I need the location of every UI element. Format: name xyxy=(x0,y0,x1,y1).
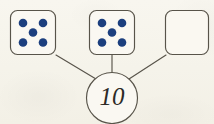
die-2-pip-top-right xyxy=(118,19,127,28)
die-2-pip-center xyxy=(108,28,117,37)
part-die-1[interactable] xyxy=(11,11,56,55)
die-1-pip-top-right xyxy=(39,19,48,28)
die-2-pip-bottom-right xyxy=(118,38,127,47)
die-1-pip-bottom-left xyxy=(19,38,28,47)
die-1-pip-center xyxy=(29,28,38,37)
sum-node[interactable]: 10 xyxy=(87,73,138,124)
part-die-3[interactable] xyxy=(166,11,209,55)
die-1-pip-bottom-right xyxy=(39,38,48,47)
die-1-pip-top-left xyxy=(19,19,28,28)
die-2-pip-top-left xyxy=(98,19,107,28)
connector-left-line xyxy=(56,55,96,79)
connector-right-line xyxy=(129,55,166,79)
number-bond-worksheet: 10 xyxy=(0,0,214,124)
die-2-pip-bottom-left xyxy=(98,38,107,47)
number-bond-diagram: 10 xyxy=(0,0,214,124)
die-3-box-empty[interactable] xyxy=(166,11,209,55)
part-die-2[interactable] xyxy=(90,11,135,55)
sum-value: 10 xyxy=(100,83,126,110)
